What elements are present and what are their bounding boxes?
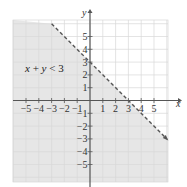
ineq-rest: < 3 [47, 62, 65, 74]
y-axis-arrow-icon [88, 9, 93, 13]
y-tick-label: −3 [77, 133, 88, 144]
y-axis-label: y [81, 7, 87, 18]
x-tick-label: 4 [139, 103, 144, 114]
y-tick-label: −4 [77, 146, 88, 157]
y-tick-label: 3 [83, 57, 88, 68]
ineq-plus: + [30, 62, 42, 74]
x-tick-label: −4 [33, 103, 44, 114]
x-tick-label: 1 [100, 103, 105, 114]
y-tick-label: −2 [77, 121, 88, 132]
x-tick-label: 3 [126, 103, 131, 114]
x-axis-label: x [175, 98, 181, 109]
y-tick-label: −1 [77, 108, 88, 119]
x-tick-label: −5 [21, 103, 32, 114]
inequality-graph: −5−4−3−2−112345−5−4−3−2−112345 x y x + y… [0, 0, 187, 187]
x-tick-label: −3 [46, 103, 57, 114]
y-tick-label: 4 [83, 44, 88, 55]
x-tick-label: 2 [113, 103, 118, 114]
inequality-label: x + y < 3 [24, 62, 64, 74]
y-tick-label: 1 [83, 82, 88, 93]
y-tick-label: 5 [83, 31, 88, 42]
y-tick-label: 2 [83, 69, 88, 80]
y-tick-label: −5 [77, 159, 88, 170]
x-tick-label: 5 [152, 103, 157, 114]
x-tick-label: −2 [59, 103, 70, 114]
